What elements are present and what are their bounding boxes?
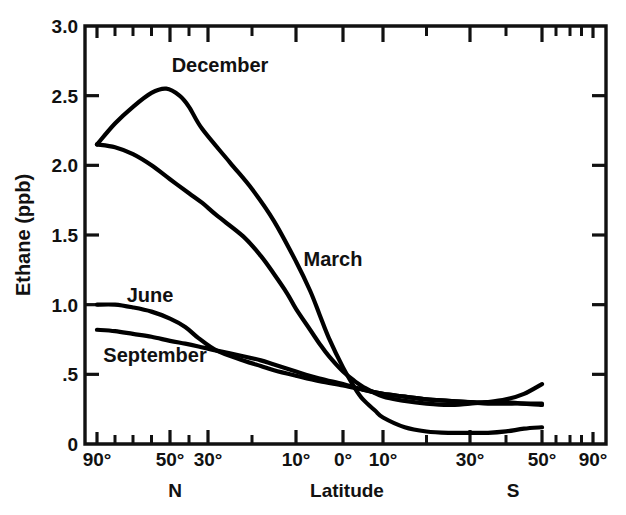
x-tick-label-7: 50°: [528, 449, 557, 470]
y-tick-label-3: 1.5: [52, 225, 79, 246]
series-label-december: December: [172, 54, 269, 76]
x-tick-label-0: 90°: [83, 449, 112, 470]
y-tick-label-4: 2.0: [52, 155, 78, 176]
y-tick-label-5: 2.5: [52, 86, 79, 107]
series-label-june: June: [127, 284, 174, 306]
y-tick-label-1: .5: [62, 364, 78, 385]
y-tick-label-0: 0: [67, 434, 78, 455]
series-label-march: March: [304, 248, 363, 270]
ethane-latitude-chart: 0.51.01.52.02.53.0 90°50°30°10°0°10°30°5…: [0, 0, 626, 515]
x-axis-title: Latitude: [310, 480, 384, 501]
x-tick-labels: 90°50°30°10°0°10°30°50°90°: [83, 449, 608, 470]
x-tick-label-1: 50°: [156, 449, 185, 470]
series-label-september: September: [103, 344, 207, 366]
x-tick-label-2: 30°: [194, 449, 223, 470]
north-hemisphere-label: N: [168, 480, 182, 501]
x-tick-label-5: 10°: [369, 449, 398, 470]
x-tick-label-6: 30°: [456, 449, 485, 470]
y-tick-label-6: 3.0: [52, 16, 78, 37]
south-hemisphere-label: S: [507, 480, 520, 501]
x-tick-label-3: 10°: [282, 449, 311, 470]
y-tick-label-2: 1.0: [52, 295, 78, 316]
x-tick-label-4: 0°: [334, 449, 352, 470]
x-tick-label-8: 90°: [579, 449, 608, 470]
y-axis-title: Ethane (ppb): [12, 174, 34, 296]
